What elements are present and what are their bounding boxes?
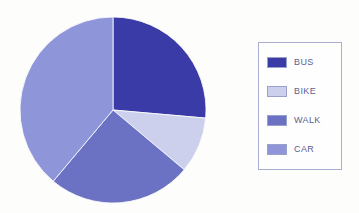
legend-label-bike: BIKE <box>294 87 316 96</box>
pie-slice-group <box>20 17 206 203</box>
pie-chart-figure: BUSBIKEWALKCAR <box>0 0 359 213</box>
pie-slice-bus <box>113 17 206 118</box>
pie-chart-svg <box>18 15 208 205</box>
legend-label-walk: WALK <box>294 116 321 125</box>
legend-swatch-bus <box>267 57 287 68</box>
legend-item-bike: BIKE <box>267 81 341 103</box>
pie-chart-area <box>18 15 208 205</box>
legend-swatch-walk <box>267 115 287 126</box>
legend-swatch-bike <box>267 86 287 97</box>
legend-item-walk: WALK <box>267 110 341 132</box>
legend-label-car: CAR <box>294 145 314 154</box>
legend-item-list: BUSBIKEWALKCAR <box>259 43 341 169</box>
legend-item-bus: BUS <box>267 52 341 74</box>
legend-label-bus: BUS <box>294 58 314 67</box>
legend-item-car: CAR <box>267 139 341 161</box>
legend-swatch-car <box>267 144 287 155</box>
chart-legend: BUSBIKEWALKCAR <box>258 42 342 170</box>
